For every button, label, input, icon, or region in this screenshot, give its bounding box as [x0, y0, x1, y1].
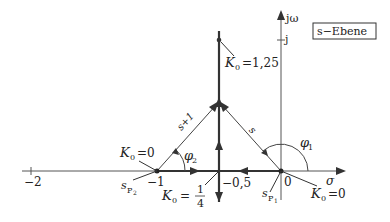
phi2-label: φ 2: [184, 148, 197, 165]
vector-s-label: s: [247, 124, 259, 135]
real-axis-label: σ: [326, 174, 335, 188]
svg-text:=: =: [180, 189, 190, 203]
pole-s-p2-label: s P 2: [121, 179, 137, 196]
arrow-right-icon: [190, 167, 200, 175]
k0-1-25-label: K 0 =1,25: [224, 55, 279, 72]
vector-s-plus-1-label: s+1: [175, 110, 196, 132]
arrow-down-icon: [215, 192, 223, 202]
k0-zero-right-label: K 0 =0: [310, 186, 346, 203]
svg-text:=0: =0: [328, 187, 346, 201]
tick-label-minus-0-5: −0,5: [222, 176, 251, 190]
imag-axis-label: jω: [284, 12, 298, 25]
svg-text:0: 0: [235, 63, 240, 72]
k0-zero-left-label: K 0 =0: [119, 145, 155, 162]
tick-label-minus-2: −2: [24, 175, 42, 189]
pole-s-p1-label: s P 1: [262, 187, 278, 204]
tick-label-0: 0: [284, 175, 292, 189]
svg-text:2: 2: [133, 189, 137, 196]
phi1-label: φ 1: [300, 135, 313, 152]
arrow-up-icon: [215, 140, 223, 150]
svg-text:0: 0: [321, 194, 326, 203]
plane-label: s−Ebene: [317, 25, 367, 38]
imag-axis-arrow-icon: [277, 10, 285, 20]
svg-text:=0: =0: [137, 146, 155, 160]
tick-label-minus-1: −1: [147, 175, 165, 189]
svg-text:2: 2: [192, 156, 197, 165]
svg-text:1: 1: [308, 143, 313, 152]
arrow-left-icon: [238, 167, 248, 175]
svg-text:=1,25: =1,25: [242, 56, 279, 70]
k0-quarter-label: K 0 = 1 4: [161, 183, 205, 210]
svg-text:0: 0: [130, 153, 135, 162]
svg-text:4: 4: [197, 197, 204, 210]
svg-text:1: 1: [274, 197, 278, 204]
real-axis-arrow-icon: [336, 167, 346, 175]
plane-label-box: s−Ebene: [313, 23, 376, 39]
root-locus-diagram: jω j σ −2 −1 −0,5 0 s−Ebene K 0 =1,25 K …: [0, 0, 390, 222]
k0-1-25-point: [217, 38, 222, 43]
svg-text:1: 1: [197, 183, 204, 196]
svg-text:0: 0: [172, 196, 177, 205]
